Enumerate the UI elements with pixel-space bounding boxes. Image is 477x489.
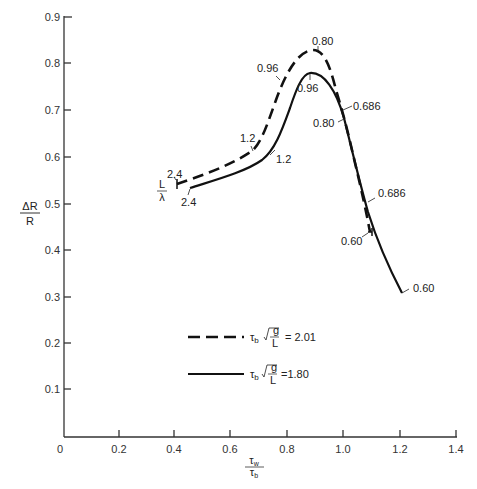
svg-text:g: g <box>273 324 279 336</box>
svg-text:0.8: 0.8 <box>279 443 294 455</box>
svg-text:0.96: 0.96 <box>297 82 318 94</box>
svg-text:1.2: 1.2 <box>392 443 407 455</box>
svg-text:0.80: 0.80 <box>313 117 334 129</box>
legend-item-solid: τb g L =1.80 <box>188 361 309 386</box>
svg-text:0.7: 0.7 <box>45 104 60 116</box>
svg-text:R: R <box>26 215 34 227</box>
svg-text:0.686: 0.686 <box>353 100 381 112</box>
svg-text:0.9: 0.9 <box>45 11 60 23</box>
svg-text:0.4: 0.4 <box>45 244 60 256</box>
dashed-annotations: 2.4 1.2 0.96 0.80 0.686 0.60 <box>167 35 381 247</box>
svg-text:0.686: 0.686 <box>378 187 406 199</box>
svg-text:1.2: 1.2 <box>240 132 255 144</box>
svg-text:L: L <box>270 374 276 386</box>
svg-text:L: L <box>272 337 278 349</box>
svg-text:0.6: 0.6 <box>45 151 60 163</box>
svg-text:= 2.01: = 2.01 <box>285 331 316 343</box>
svg-text:0.60: 0.60 <box>413 282 434 294</box>
svg-text:0.2: 0.2 <box>111 443 126 455</box>
svg-text:=1.80: =1.80 <box>281 368 309 380</box>
svg-text:τb: τb <box>250 368 259 382</box>
parameter-label: L λ <box>157 178 167 203</box>
svg-text:τb: τb <box>250 331 259 345</box>
svg-text:2.4: 2.4 <box>181 196 196 208</box>
x-axis-label: τw τb <box>245 454 264 479</box>
series-dashed-curve <box>177 50 370 232</box>
svg-text:0: 0 <box>57 443 63 455</box>
svg-text:2.4: 2.4 <box>167 168 182 180</box>
svg-text:0.5: 0.5 <box>45 198 60 210</box>
x-tick-labels: 0 0.2 0.4 0.6 0.8 1.0 1.2 1.4 <box>57 443 464 455</box>
solid-annotations: 2.4 1.2 0.96 0.80 0.686 0.60 <box>181 74 434 294</box>
svg-text:g: g <box>271 361 277 373</box>
x-axis <box>64 430 457 437</box>
svg-text:0.6: 0.6 <box>222 443 237 455</box>
svg-text:0.4: 0.4 <box>166 443 181 455</box>
svg-text:1.2: 1.2 <box>276 153 291 165</box>
y-axis <box>64 16 72 437</box>
svg-text:0.8: 0.8 <box>45 57 60 69</box>
svg-text:0.2: 0.2 <box>45 337 60 349</box>
legend: τb g L = 2.01 τb g L =1.80 <box>188 324 316 386</box>
legend-item-dashed: τb g L = 2.01 <box>188 324 316 349</box>
svg-text:ΔR: ΔR <box>22 200 37 212</box>
svg-text:0.3: 0.3 <box>45 291 60 303</box>
y-tick-labels: 0.9 0.8 0.7 0.6 0.5 0.4 0.3 0.2 0.1 <box>45 11 60 395</box>
y-axis-label: ΔR R <box>20 200 40 227</box>
svg-text:1.4: 1.4 <box>448 443 463 455</box>
svg-text:0.80: 0.80 <box>312 35 333 47</box>
svg-text:τb: τb <box>250 466 258 479</box>
svg-text:1.0: 1.0 <box>335 443 350 455</box>
svg-text:0.96: 0.96 <box>257 62 278 74</box>
svg-text:0.1: 0.1 <box>45 383 60 395</box>
svg-text:L: L <box>159 178 165 190</box>
svg-text:λ: λ <box>159 191 165 203</box>
chart-canvas: 0.9 0.8 0.7 0.6 0.5 0.4 0.3 0.2 0.1 0 0.… <box>0 0 477 489</box>
end-markers <box>177 179 372 236</box>
svg-text:0.60: 0.60 <box>341 235 362 247</box>
